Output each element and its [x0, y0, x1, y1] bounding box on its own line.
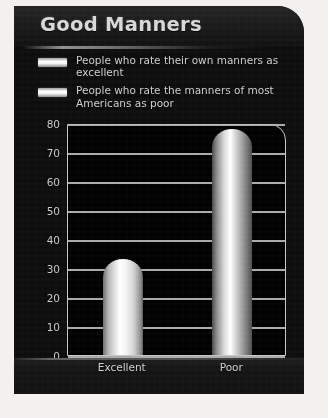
x-axis-label-excellent: Excellent: [98, 361, 146, 373]
x-axis-label-poor: Poor: [220, 361, 243, 373]
plot-area: [67, 124, 286, 356]
y-axis-tick-label: 80: [47, 118, 60, 130]
title-band: Good Manners: [14, 6, 304, 46]
gridline: [68, 182, 285, 183]
legend-item-poor: People who rate the manners of most Amer…: [38, 84, 288, 108]
legend-swatch-poor-icon: [38, 88, 67, 97]
chart-legend: People who rate their own manners as exc…: [38, 54, 288, 115]
legend-label-poor: People who rate the manners of most Amer…: [76, 84, 288, 108]
scanned-page: Good Manners People who rate their own m…: [0, 0, 328, 418]
gridline: [68, 327, 285, 328]
y-axis: 01020304050607080: [38, 124, 64, 356]
gridline: [68, 269, 285, 270]
y-axis-tick-label: 40: [47, 234, 60, 246]
legend-item-excellent: People who rate their own manners as exc…: [38, 54, 288, 78]
gridline: [68, 298, 285, 299]
chart-plot-wrapper: 01020304050607080: [38, 124, 286, 356]
legend-swatch-excellent-icon: [38, 58, 67, 67]
y-axis-tick-label: 70: [47, 147, 60, 159]
legend-label-excellent: People who rate their own manners as exc…: [76, 54, 288, 78]
title-divider: [22, 46, 272, 49]
gridline: [68, 211, 285, 212]
x-axis-band: ExcellentPoor: [14, 358, 304, 394]
y-axis-tick-label: 50: [47, 205, 60, 217]
x-axis-divider: [14, 358, 304, 360]
y-axis-tick-label: 20: [47, 292, 60, 304]
gridline: [68, 124, 285, 125]
gridline: [68, 240, 285, 241]
gridline: [68, 153, 285, 154]
chart-panel: Good Manners People who rate their own m…: [14, 6, 304, 394]
bar-poor: [212, 129, 252, 355]
page-title: Good Manners: [40, 13, 202, 36]
bar-excellent: [103, 259, 143, 355]
y-axis-tick-label: 10: [47, 321, 60, 333]
y-axis-tick-label: 60: [47, 176, 60, 188]
y-axis-tick-label: 30: [47, 263, 60, 275]
